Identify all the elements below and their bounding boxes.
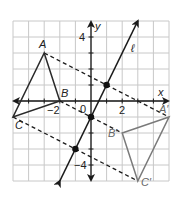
vertex-c-prime-label: C′ bbox=[141, 176, 152, 188]
midpoint-bb bbox=[88, 114, 94, 120]
line-l-label: ℓ bbox=[130, 42, 135, 54]
reflection-diagram: y x 4 −4 −2 2 0 ℓ A B C A′ B′ C′ bbox=[0, 0, 179, 197]
y-axis-label: y bbox=[94, 20, 102, 32]
x-axis-label: x bbox=[157, 86, 164, 98]
vertex-b-label: B bbox=[61, 87, 68, 99]
tick-label-y4: 4 bbox=[79, 31, 85, 43]
vertex-a-label: A bbox=[38, 38, 46, 50]
tick-label-y-neg4: −4 bbox=[74, 159, 87, 171]
tick-label-x2: 2 bbox=[119, 104, 125, 116]
tick-label-origin: 0 bbox=[80, 103, 86, 115]
vertex-c-label: C bbox=[15, 119, 23, 131]
vertex-a-prime-label: A′ bbox=[158, 103, 169, 115]
vertex-b-prime-label: B′ bbox=[108, 127, 118, 139]
midpoint-aa bbox=[103, 82, 109, 88]
midpoint-cc bbox=[72, 146, 78, 152]
tick-label-x-neg2: −2 bbox=[47, 104, 60, 116]
